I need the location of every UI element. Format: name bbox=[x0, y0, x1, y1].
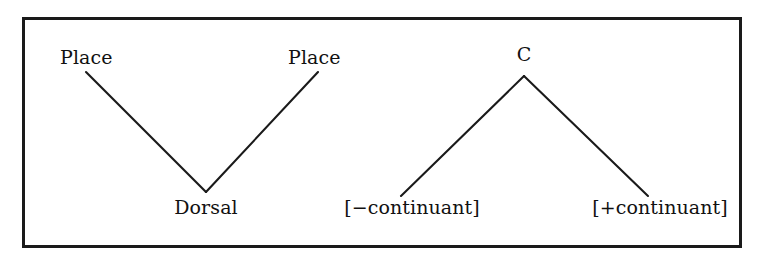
node-label-place-left: Place bbox=[60, 48, 113, 67]
figure-root: Place Place Dorsal C [−continuant] [+con… bbox=[0, 0, 762, 260]
node-label-dorsal: Dorsal bbox=[174, 198, 238, 217]
node-label-c: C bbox=[517, 45, 532, 64]
node-label-minus-continuant: [−continuant] bbox=[344, 198, 480, 217]
node-label-place-right: Place bbox=[288, 48, 341, 67]
node-label-plus-continuant: [+continuant] bbox=[592, 198, 728, 217]
